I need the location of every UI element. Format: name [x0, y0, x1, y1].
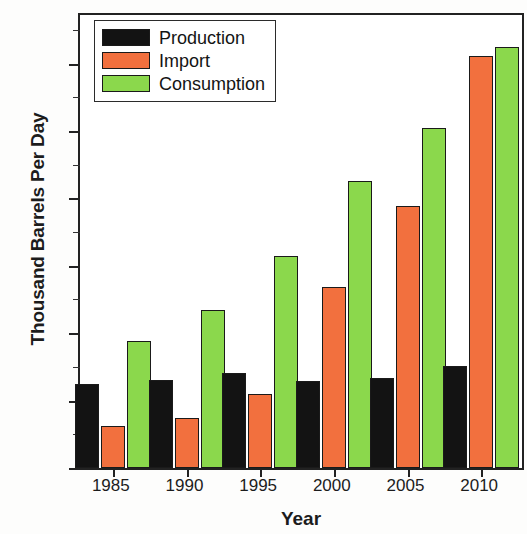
y-tick-0 [69, 468, 80, 470]
bar-chart-figure: Thousand Barrels Per Day Year 0500100015… [0, 0, 527, 534]
bar-import-2005 [396, 206, 420, 468]
chart-legend: Production Import Consumption [94, 20, 276, 102]
y-tick-minor-2250 [73, 165, 80, 166]
x-tick-label-1985: 1985 [71, 476, 151, 496]
bar-import-2010 [469, 56, 493, 468]
y-axis-title: Thousand Barrels Per Day [27, 39, 49, 419]
bar-consumption-1995 [274, 256, 298, 468]
bar-production-2010 [443, 366, 467, 468]
x-tick-label-1990: 1990 [145, 476, 225, 496]
x-axis-title: Year [78, 508, 524, 530]
y-tick-2000 [69, 198, 80, 200]
bar-consumption-2000 [348, 181, 372, 468]
y-tick-minor-3250 [73, 30, 80, 31]
x-tick-label-2005: 2005 [366, 476, 446, 496]
legend-label-consumption: Consumption [159, 75, 265, 93]
bar-production-1995 [222, 373, 246, 468]
bar-import-1995 [248, 394, 272, 468]
x-tick-label-2000: 2000 [292, 476, 372, 496]
legend-item-consumption: Consumption [102, 72, 265, 95]
bar-consumption-1990 [201, 310, 225, 468]
y-tick-minor-1750 [73, 232, 80, 233]
legend-swatch-production-icon [102, 29, 150, 46]
bar-production-1990 [149, 380, 173, 468]
bar-consumption-1985 [127, 341, 151, 468]
bar-production-1985 [75, 384, 99, 468]
bar-import-1990 [175, 418, 199, 468]
y-tick-minor-1250 [73, 299, 80, 300]
y-tick-1000 [69, 333, 80, 335]
x-tick-label-1995: 1995 [218, 476, 298, 496]
bar-production-2000 [296, 381, 320, 468]
bar-consumption-2005 [422, 128, 446, 468]
plot-area: 050010001500200025003000 Production Impo… [78, 13, 524, 470]
legend-item-import: Import [102, 49, 265, 72]
y-tick-minor-750 [73, 367, 80, 368]
y-tick-3000 [69, 64, 80, 66]
bar-import-2000 [322, 287, 346, 468]
legend-label-import: Import [159, 52, 210, 70]
legend-swatch-consumption-icon [102, 75, 150, 92]
legend-item-production: Production [102, 26, 265, 49]
legend-swatch-import-icon [102, 52, 150, 69]
y-tick-1500 [69, 266, 80, 268]
bar-consumption-2010 [495, 47, 519, 468]
y-tick-2500 [69, 131, 80, 133]
x-tick-label-2010: 2010 [439, 476, 519, 496]
y-tick-minor-2750 [73, 97, 80, 98]
legend-label-production: Production [159, 29, 245, 47]
bar-import-1985 [101, 426, 125, 468]
bar-production-2005 [370, 378, 394, 468]
